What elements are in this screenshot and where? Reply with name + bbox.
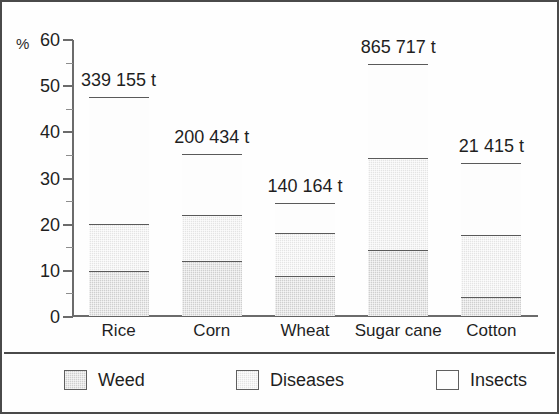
y-tick-label-40: 40	[40, 123, 60, 141]
bar-value-label: 865 717 t	[361, 38, 436, 56]
y-tick-label-30: 30	[40, 170, 60, 188]
y-tick-label-20: 20	[40, 216, 60, 234]
diseases-swatch	[236, 370, 259, 390]
category-label-corn: Corn	[193, 322, 230, 339]
bar-group-corn[interactable]: 200 434 t	[182, 40, 242, 317]
legend-item-diseases[interactable]: Diseases	[236, 370, 344, 390]
bar-segment-weed[interactable]	[368, 250, 428, 316]
bar-value-label: 339 155 t	[81, 71, 156, 89]
bar-value-label: 140 164 t	[267, 177, 342, 195]
insects-swatch	[436, 370, 459, 390]
category-label-rice: Rice	[102, 322, 136, 339]
bar-segment-weed[interactable]	[89, 271, 149, 316]
bar-segment-insects[interactable]	[368, 64, 428, 157]
bar-group-wheat[interactable]: 140 164 t	[275, 40, 335, 317]
y-tick-label-50: 50	[40, 77, 60, 95]
stacked-bar[interactable]	[368, 65, 428, 317]
bar-segment-diseases[interactable]	[461, 235, 521, 297]
category-label-sugar-cane: Sugar cane	[355, 322, 442, 339]
legend-item-weed[interactable]: Weed	[64, 370, 145, 390]
bar-group-cotton[interactable]: 21 415 t	[461, 40, 521, 317]
bar-segment-weed[interactable]	[275, 276, 335, 316]
legend-label: Diseases	[270, 371, 344, 389]
stacked-bar[interactable]	[182, 155, 242, 317]
legend-item-insects[interactable]: Insects	[436, 370, 527, 390]
bar-segment-diseases[interactable]	[89, 224, 149, 272]
bar-segment-insects[interactable]	[275, 203, 335, 233]
bar-segment-weed[interactable]	[182, 261, 242, 316]
stacked-bar[interactable]	[461, 164, 521, 317]
bar-segment-insects[interactable]	[89, 97, 149, 224]
plot-area: 339 155 t200 434 t140 164 t865 717 t21 4…	[72, 40, 538, 317]
stacked-bar[interactable]	[89, 98, 149, 317]
bar-segment-insects[interactable]	[461, 163, 521, 235]
bar-segment-diseases[interactable]	[275, 233, 335, 276]
stacked-bar[interactable]	[275, 204, 335, 317]
bar-group-sugar-cane[interactable]: 865 717 t	[368, 40, 428, 317]
legend-label: Insects	[470, 371, 527, 389]
category-label-cotton: Cotton	[466, 322, 516, 339]
category-label-wheat: Wheat	[280, 322, 329, 339]
bar-segment-diseases[interactable]	[368, 158, 428, 250]
weed-swatch	[64, 370, 87, 390]
bar-group-rice[interactable]: 339 155 t	[89, 40, 149, 317]
bar-value-label: 200 434 t	[174, 128, 249, 146]
bar-segment-insects[interactable]	[182, 154, 242, 215]
chart-figure: % 6050403020100 339 155 t200 434 t140 16…	[0, 0, 559, 414]
bar-value-label: 21 415 t	[459, 137, 524, 155]
chart-legend: WeedDiseasesInsects	[4, 352, 555, 410]
y-tick-label-10: 10	[40, 262, 60, 280]
legend-label: Weed	[98, 371, 145, 389]
y-tick-label-60: 60	[40, 31, 60, 49]
y-tick-label-0: 0	[50, 308, 60, 326]
bar-segment-diseases[interactable]	[182, 215, 242, 260]
bar-segment-weed[interactable]	[461, 297, 521, 316]
